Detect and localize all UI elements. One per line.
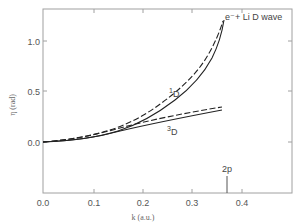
y-axis-title: η (rad) [8, 94, 17, 116]
phase-shift-chart: 0.0 0.1 0.2 0.3 0.4 1.0 0.5 0.0 k (a.u.)… [0, 0, 297, 224]
plot-frame [43, 9, 292, 193]
x-axis-title: k (a.u.) [132, 213, 155, 222]
y-tick-label: 0.0 [27, 138, 40, 148]
curve-1d-solid [43, 20, 224, 142]
label-3d: 3 D [167, 125, 178, 137]
curve-3d-dashed [43, 107, 222, 142]
x-tick-labels: 0.0 0.1 0.2 0.3 0.4 [37, 198, 249, 208]
y-tick-labels: 1.0 0.5 0.0 [27, 37, 40, 148]
chart-title-annotation: e⁻+ Li D wave [225, 12, 282, 22]
y-tick-label: 1.0 [27, 37, 40, 47]
x-tick-label: 0.4 [236, 198, 249, 208]
y-tick-label: 0.5 [27, 87, 40, 97]
label-1d: 1 D [169, 87, 180, 99]
threshold-2p-label: 2p [222, 164, 232, 174]
x-tick-label: 0.1 [88, 198, 101, 208]
x-tick-label: 0.3 [186, 198, 199, 208]
label-1d-main: D [173, 89, 180, 99]
label-3d-main: D [171, 127, 178, 137]
x-tick-label: 0.0 [37, 198, 50, 208]
x-tick-label: 0.2 [137, 198, 150, 208]
